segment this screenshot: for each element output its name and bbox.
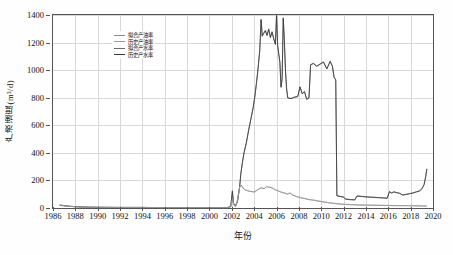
x-tick-label-2000: 2000 — [201, 211, 218, 221]
legend-item-2[interactable]: 拟合产水率 — [114, 45, 153, 51]
x-tick-mark — [142, 207, 143, 211]
x-tick-mark — [232, 207, 233, 211]
x-tick-label-2008: 2008 — [290, 211, 307, 221]
x-tick-label-1994: 1994 — [134, 211, 151, 221]
legend-item-label: 拟合产水率 — [128, 45, 153, 51]
x-tick-label-2012: 2012 — [335, 211, 352, 221]
y-tick-mark — [46, 180, 50, 181]
legend: 拟合产油率历史产油率拟合产水率历史产水率 — [112, 31, 155, 59]
y-tick-label-1200: 1200 — [27, 38, 44, 48]
x-tick-mark — [165, 207, 166, 211]
y-tick-label-1400: 1400 — [27, 10, 44, 20]
y-tick-label-600: 600 — [31, 120, 44, 130]
x-tick-mark — [344, 207, 345, 211]
x-tick-label-1988: 1988 — [67, 211, 84, 221]
legend-item-0[interactable]: 拟合产油率 — [114, 32, 153, 38]
x-tick-mark — [209, 207, 210, 211]
plot-area: 拟合产油率历史产油率拟合产水率历史产水率 — [52, 14, 434, 209]
legend-line-swatch-icon — [114, 48, 125, 49]
x-tick-mark — [277, 207, 278, 211]
x-tick-mark — [254, 207, 255, 211]
x-tick-label-2010: 2010 — [313, 211, 330, 221]
x-tick-label-1996: 1996 — [156, 211, 173, 221]
x-tick-label-1998: 1998 — [179, 211, 196, 221]
y-tick-label-0: 0 — [40, 203, 44, 213]
x-tick-label-1990: 1990 — [89, 211, 106, 221]
y-tick-mark — [46, 153, 50, 154]
x-tick-mark — [187, 207, 188, 211]
legend-line-swatch-icon — [114, 54, 125, 55]
legend-item-label: 拟合产油率 — [128, 32, 153, 38]
x-tick-label-2006: 2006 — [268, 211, 285, 221]
x-tick-mark — [411, 207, 412, 211]
y-tick-label-400: 400 — [31, 148, 44, 158]
x-tick-label-2004: 2004 — [246, 211, 263, 221]
x-tick-mark — [53, 207, 54, 211]
x-tick-mark — [299, 207, 300, 211]
chart-figure: 产液速度(m³/d) 0200400600800100012001400 拟合产… — [0, 0, 453, 255]
y-tick-label-1000: 1000 — [27, 65, 44, 75]
y-tick-label-800: 800 — [31, 93, 44, 103]
y-tick-mark — [46, 98, 50, 99]
legend-line-swatch-icon — [114, 41, 125, 42]
x-tick-mark — [75, 207, 76, 211]
series-lines — [53, 15, 433, 208]
x-tick-label-2016: 2016 — [380, 211, 397, 221]
y-tick-mark — [46, 125, 50, 126]
x-tick-mark — [321, 207, 322, 211]
series-line-拟合产油率 — [60, 185, 427, 207]
y-tick-mark — [46, 43, 50, 44]
y-tick-mark — [46, 15, 50, 16]
x-tick-mark — [366, 207, 367, 211]
x-tick-mark — [120, 207, 121, 211]
x-tick-label-2020: 2020 — [425, 211, 442, 221]
x-tick-label-1992: 1992 — [112, 211, 129, 221]
legend-item-1[interactable]: 历史产油率 — [114, 39, 153, 45]
legend-item-label: 历史产水率 — [128, 52, 153, 58]
legend-line-swatch-icon — [114, 35, 125, 36]
series-line-历史产油率 — [60, 185, 427, 208]
x-tick-label-1986: 1986 — [45, 211, 62, 221]
y-tick-mark — [46, 70, 50, 71]
x-tick-mark — [388, 207, 389, 211]
y-axis-tick-labels: 0200400600800100012001400 — [0, 14, 50, 209]
x-tick-mark — [433, 207, 434, 211]
y-tick-label-200: 200 — [31, 175, 44, 185]
legend-item-label: 历史产油率 — [128, 39, 153, 45]
x-axis-title: 年份 — [52, 229, 434, 242]
x-axis-tick-labels: 1986198819901992199419961998200020022004… — [52, 211, 434, 225]
x-tick-label-2002: 2002 — [223, 211, 240, 221]
legend-item-3[interactable]: 历史产水率 — [114, 52, 153, 58]
x-tick-label-2018: 2018 — [402, 211, 419, 221]
x-tick-label-2014: 2014 — [357, 211, 374, 221]
x-tick-mark — [98, 207, 99, 211]
y-tick-mark — [46, 208, 50, 209]
